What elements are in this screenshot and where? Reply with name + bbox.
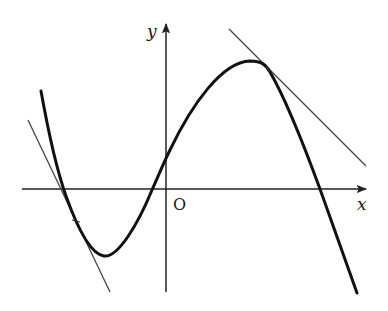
function-curve [41, 61, 357, 293]
y-axis-label: y [146, 21, 157, 41]
x-axis-label: x [357, 194, 367, 214]
origin-label: O [173, 195, 186, 214]
right-tangent-line [229, 29, 366, 166]
function-graph-figure: y x O [0, 0, 388, 311]
